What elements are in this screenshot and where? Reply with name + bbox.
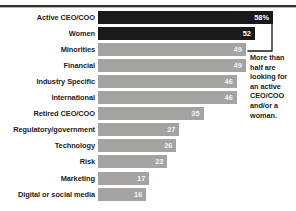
callout-text-line: half are	[250, 63, 296, 73]
bar: 46	[98, 91, 237, 104]
bar: 23	[98, 155, 167, 168]
top-divider-rule-secondary	[0, 7, 296, 8]
bar-category-label: Women	[3, 27, 95, 40]
bar-value-label: 17	[137, 172, 145, 185]
bar-value-label: 46	[225, 91, 233, 104]
bar: 16	[98, 188, 146, 201]
bar-value-label: 16	[134, 188, 142, 201]
callout-text-line: More than	[250, 53, 296, 63]
bar: 35	[98, 107, 204, 120]
bar: 49	[98, 59, 246, 72]
bar: 49	[98, 43, 246, 56]
callout-text-line: woman.	[250, 111, 296, 121]
bar: 46	[98, 75, 237, 88]
bar-category-label: Risk	[3, 155, 95, 168]
callout-text-line: CEO/COO	[250, 91, 296, 101]
callout-bracket-icon	[247, 10, 296, 52]
bar-row: Technology26	[0, 139, 296, 152]
bar-category-label: Industry Specific	[3, 75, 95, 88]
bar-category-label: Regulatory/government	[3, 123, 95, 136]
bar-value-label: 49	[234, 43, 242, 56]
bar-value-label: 35	[191, 107, 199, 120]
bar-category-label: International	[3, 91, 95, 104]
bar-value-label: 23	[155, 155, 163, 168]
bar-row: Digital or social media16	[0, 188, 296, 201]
callout-text-line: looking for	[250, 72, 296, 82]
bar-category-label: Digital or social media	[3, 188, 95, 201]
chart-container: Active CEO/COO58%Women52Minorities49Fina…	[0, 0, 296, 211]
bar-value-label: 49	[234, 59, 242, 72]
bar-category-label: Minorities	[3, 43, 95, 56]
bar-value-label: 27	[167, 123, 175, 136]
bar: 52	[98, 27, 255, 40]
bar: 17	[98, 172, 149, 185]
bar-value-label: 46	[225, 75, 233, 88]
bar-value-label: 26	[164, 139, 172, 152]
bar-row: Risk23	[0, 155, 296, 168]
bar: 26	[98, 139, 176, 152]
bar-category-label: Marketing	[3, 172, 95, 185]
bar-category-label: Financial	[3, 59, 95, 72]
bar-category-label: Technology	[3, 139, 95, 152]
bar-row: Regulatory/government27	[0, 123, 296, 136]
callout-text-line: and/or a	[250, 101, 296, 111]
bar: 27	[98, 123, 179, 136]
bar-row: Marketing17	[0, 172, 296, 185]
bar-category-label: Active CEO/COO	[3, 11, 95, 24]
bar-category-label: Retired CEO/COO	[3, 107, 95, 120]
callout-text: More thanhalf arelooking foran activeCEO…	[250, 53, 296, 120]
callout-text-line: an active	[250, 82, 296, 92]
